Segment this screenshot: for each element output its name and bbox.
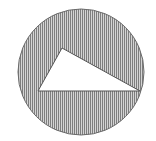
geometry-diagram [0, 0, 156, 141]
